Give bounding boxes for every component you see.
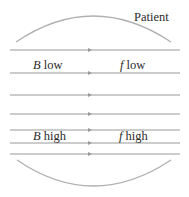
f-low-label: f low <box>120 58 145 72</box>
arrow-right-icon <box>88 128 92 132</box>
f-high-suffix: high <box>122 129 148 143</box>
arrow-right-icon <box>88 71 92 75</box>
b-low-suffix: low <box>41 58 63 72</box>
b-high-suffix: high <box>41 129 67 143</box>
patient-label: Patient <box>134 10 169 24</box>
arrow-right-icon <box>88 48 92 52</box>
patient-outline-bottom-arc <box>17 160 171 186</box>
magnetic-field-diagram: Patient B low f low B high f high <box>0 0 189 197</box>
arrow-right-icon <box>88 112 92 116</box>
f-low-suffix: low <box>123 58 145 72</box>
b-low-label: B low <box>33 58 63 72</box>
arrow-right-icon <box>88 93 92 97</box>
arrow-right-icon <box>88 141 92 145</box>
b-high-label: B high <box>33 129 67 143</box>
f-high-label: f high <box>119 129 149 143</box>
arrow-right-icon <box>88 152 92 156</box>
